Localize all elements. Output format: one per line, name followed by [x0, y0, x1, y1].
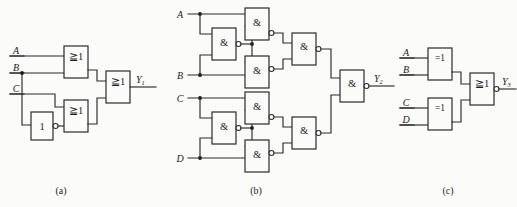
gate-b-nand-bot-4-symbol: & [300, 125, 308, 136]
gate-c-nor1-symbol: ≧1 [475, 78, 489, 89]
gate-b-nand-bot-4-bubble [316, 131, 321, 136]
wire-a-or2-out [88, 98, 106, 124]
gate-b-nand-bot-3-symbol: & [253, 149, 261, 160]
caption-c: (c) [442, 185, 453, 197]
wire-b-C-branch [200, 98, 212, 118]
wire-b-B-branch [200, 55, 212, 75]
gate-b-nand-top-3-symbol: & [253, 65, 261, 76]
gate-c-xor2-symbol: =1 [435, 103, 445, 113]
logic-circuit-figure: A B C ≧1 1 ≧1 ≧1 [0, 0, 517, 207]
input-label-b-D: D [175, 153, 184, 164]
gate-b-nand-top-3-bubble [269, 67, 274, 72]
circuit-c: A B C D =1 =1 ≧1 Y3 (c) [400, 47, 516, 197]
input-label-a-B: B [13, 62, 19, 73]
gate-b-nand-bot-1-bubble [236, 126, 241, 131]
wire-c-xor2-out [452, 100, 470, 122]
wire-b-nand-top-3-out [274, 59, 292, 69]
gate-b-nand-top-2-bubble [269, 31, 274, 36]
caption-a: (a) [55, 185, 66, 197]
gate-b-nand-top-2-symbol: & [253, 17, 261, 28]
gate-a-or1-symbol: ≧1 [69, 51, 83, 62]
wire-a-or1-out [88, 70, 106, 81]
gate-b-nand-out-bubble [364, 84, 369, 89]
gate-b-nand-top-4-symbol: & [300, 41, 308, 52]
output-label-a: Y1 [136, 74, 145, 86]
wire-a-C [10, 94, 64, 107]
gate-b-nand-top-1-symbol: & [220, 37, 228, 48]
circuit-b: A B C D & & & & [175, 8, 394, 197]
wire-b-nand-bot-3-out [274, 143, 292, 153]
input-label-b-C: C [177, 93, 184, 104]
wire-b-nand-bot-4-out [321, 95, 340, 133]
input-label-a-A: A [12, 45, 20, 56]
input-label-b-B: B [177, 70, 183, 81]
junction-a-B [20, 71, 24, 75]
output-label-c: Y3 [502, 76, 512, 88]
gate-b-nand-bot-2-symbol: & [253, 101, 261, 112]
gate-b-nand-top-1-bubble [236, 42, 241, 47]
wire-a-B-branch [22, 73, 31, 125]
gate-a-or2-symbol: ≧1 [69, 105, 83, 116]
gate-b-nand-bot-1-symbol: & [220, 121, 228, 132]
input-label-c-C: C [403, 97, 410, 108]
input-label-a-C: C [13, 83, 20, 94]
wire-b-nand-top-2-out [274, 33, 292, 43]
output-label-b: Y2 [374, 73, 384, 85]
gate-a-not1-symbol: 1 [39, 121, 44, 132]
wire-b-A-branch [200, 14, 212, 34]
gate-c-xor1-symbol: =1 [435, 53, 445, 63]
gate-c-nor1-bubble [494, 87, 499, 92]
gate-b-nand-top-4-bubble [316, 47, 321, 52]
wire-c-xor1-out [452, 72, 470, 84]
wire-b-nand-bot-2-out [274, 117, 292, 127]
gate-b-nand-out-symbol: & [348, 78, 356, 89]
gate-b-nand-bot-2-bubble [269, 115, 274, 120]
gate-a-not1-bubble [53, 124, 58, 129]
gate-a-or3-symbol: ≧1 [111, 76, 125, 87]
input-label-c-B: B [403, 64, 409, 75]
input-label-c-A: A [402, 47, 410, 58]
gate-b-nand-bot-3-bubble [269, 151, 274, 156]
caption-b: (b) [250, 185, 262, 197]
input-label-b-A: A [176, 9, 184, 20]
wire-b-D-branch [200, 138, 212, 158]
input-label-c-D: D [401, 114, 410, 125]
wire-b-nand-top-4-out [321, 49, 340, 78]
circuit-a: A B C ≧1 1 ≧1 ≧1 [10, 45, 156, 197]
